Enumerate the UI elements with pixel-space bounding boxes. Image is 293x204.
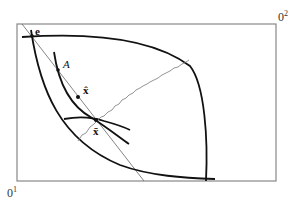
x-bar-marker: [94, 118, 98, 122]
x-hat-label: x̂: [83, 85, 89, 96]
indifference-curve-2-through-e: [22, 36, 207, 181]
x-hat-marker: [76, 95, 80, 99]
x-bar-label: x̄: [93, 126, 99, 137]
origin-2-label: 02: [278, 10, 288, 23]
edgeworth-box-frame: [17, 24, 276, 181]
indifference-curve-1-through-e: [31, 30, 215, 179]
origin-1-label: 01: [7, 186, 17, 199]
point-a-label: A: [63, 59, 70, 70]
budget-line: [22, 24, 144, 181]
endowment-label: e: [35, 26, 40, 37]
point-a-marker: [56, 68, 60, 72]
edgeworth-box-diagram: [0, 0, 293, 204]
endowment-point: [30, 34, 34, 38]
